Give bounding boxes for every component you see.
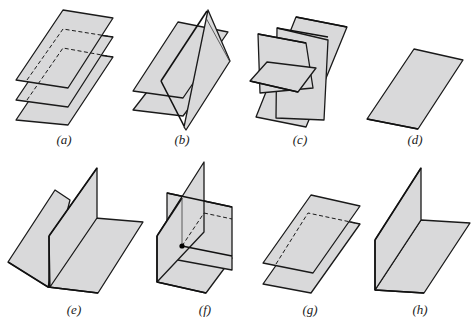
label-g: (g): [302, 302, 317, 318]
label-d: (d): [407, 132, 422, 148]
panel-b-drawing: [133, 10, 230, 130]
planes-figure: [0, 0, 474, 322]
label-f: (f): [199, 302, 211, 318]
panel-g-drawing: [263, 195, 360, 293]
label-a: (a): [56, 132, 71, 148]
label-e: (e): [67, 302, 81, 318]
panel-a-drawing: [16, 10, 113, 125]
intersection-point: [179, 243, 184, 248]
panel-f-drawing: [157, 162, 232, 293]
panel-d-drawing: [367, 49, 463, 129]
label-h: (h): [412, 302, 427, 318]
panel-c-drawing: [250, 17, 347, 127]
label-b: (b): [174, 132, 189, 148]
panel-e-drawing: [8, 168, 143, 293]
panel-h-drawing: [375, 168, 470, 293]
label-c: (c): [293, 132, 307, 148]
